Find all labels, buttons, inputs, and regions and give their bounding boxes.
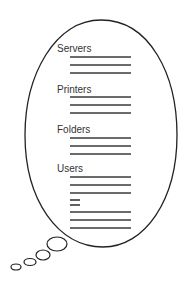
section-users: Users: [57, 163, 131, 228]
section-folders: Folders: [57, 124, 131, 154]
thought-trail-bubble-2: [36, 250, 50, 260]
section-printers: Printers: [57, 84, 131, 113]
section-label: Users: [57, 163, 83, 174]
thought-trail-bubble-4: [11, 264, 21, 270]
thought-trail-bubble-1: [47, 237, 67, 251]
thought-trail-bubble-3: [24, 259, 36, 266]
section-label: Printers: [57, 84, 91, 95]
section-label: Folders: [57, 124, 90, 135]
section-label: Servers: [57, 43, 91, 54]
thought-bubble-diagram: ServersPrintersFoldersUsers: [0, 0, 186, 283]
thought-bubble-outline: [25, 20, 177, 247]
section-servers: Servers: [57, 43, 131, 73]
